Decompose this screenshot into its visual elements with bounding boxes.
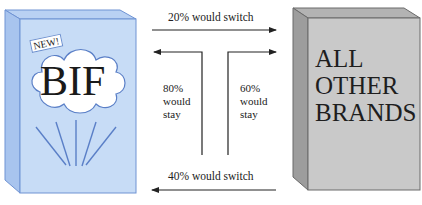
right-stay-word1: would bbox=[240, 95, 268, 108]
left-stay-pct: 80% bbox=[163, 82, 191, 95]
brand-switching-diagram: NEW! BIF ALL OTHER BRANDS 20% would swit… bbox=[0, 0, 422, 205]
bif-box-side bbox=[5, 10, 20, 193]
left-stay-label: 80% would stay bbox=[163, 82, 191, 121]
other-brands-line-3: BRANDS bbox=[315, 99, 416, 126]
top-switch-label: 20% would switch bbox=[168, 11, 254, 23]
other-box-side bbox=[293, 8, 308, 190]
other-brands-label: ALL OTHER BRANDS bbox=[315, 45, 416, 126]
other-brands-line-2: OTHER bbox=[315, 72, 416, 99]
brand-bif-label: BIF bbox=[40, 57, 105, 105]
right-stay-label: 60% would stay bbox=[240, 82, 268, 121]
left-stay-word2: stay bbox=[163, 108, 191, 121]
right-stay-word2: stay bbox=[240, 108, 268, 121]
right-stay-pct: 60% bbox=[240, 82, 268, 95]
other-brands-line-1: ALL bbox=[315, 45, 416, 72]
bottom-switch-label: 40% would switch bbox=[168, 170, 254, 182]
bif-box-top bbox=[5, 10, 136, 19]
other-box-top bbox=[293, 8, 420, 18]
left-stay-word1: would bbox=[163, 95, 191, 108]
